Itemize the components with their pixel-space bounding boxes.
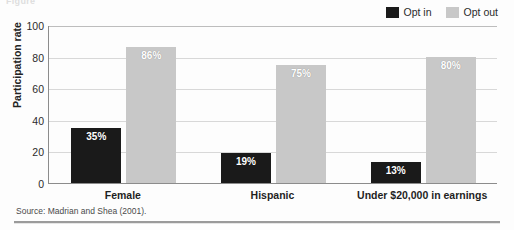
legend-label: Opt in — [404, 7, 432, 18]
bar-value-label: 75% — [276, 68, 326, 79]
source-note: Source: Madrian and Shea (2001). — [16, 206, 146, 216]
x-axis-line — [48, 183, 497, 184]
figure-container: Figure Opt in Opt out Participation rate… — [0, 0, 514, 230]
bar-group-container: 35%86%19%75%13%80% — [49, 26, 497, 183]
legend-swatch-icon — [386, 7, 399, 18]
y-axis-tick-label: 40 — [32, 115, 44, 127]
bar[interactable]: 35% — [71, 128, 121, 183]
bar-value-label: 19% — [221, 156, 271, 167]
y-axis-tick-label: 20 — [32, 146, 44, 158]
bar[interactable]: 13% — [371, 162, 421, 183]
bottom-rule — [14, 221, 500, 224]
plot-area: Participation rate 020406080100 35%86%19… — [0, 26, 514, 188]
axes: 35%86%19%75%13%80% — [48, 26, 497, 184]
figure-caption-remnant: Figure — [6, 0, 35, 6]
bar-value-label: 80% — [426, 60, 476, 71]
bar[interactable]: 19% — [221, 153, 271, 183]
bar-value-label: 13% — [371, 165, 421, 176]
legend-label: Opt out — [464, 7, 498, 18]
legend-item-opt-out[interactable]: Opt out — [446, 7, 498, 18]
y-axis-tick-label: 80 — [32, 52, 44, 64]
y-axis-tick-labels: 020406080100 — [18, 26, 44, 184]
y-axis-tick-label: 60 — [32, 83, 44, 95]
x-axis-category-labels: FemaleHispanicUnder $20,000 in earnings — [48, 189, 497, 207]
bar[interactable]: 86% — [126, 47, 176, 183]
chart-legend: Opt in Opt out — [386, 7, 498, 18]
y-axis-tick-label: 100 — [26, 20, 44, 32]
bar-value-label: 86% — [126, 50, 176, 61]
y-axis-tick-label: 0 — [38, 178, 44, 190]
legend-item-opt-in[interactable]: Opt in — [386, 7, 432, 18]
legend-swatch-icon — [446, 7, 459, 18]
bar[interactable]: 80% — [426, 57, 476, 183]
x-axis-category-label: Female — [105, 189, 141, 201]
x-axis-category-label: Under $20,000 in earnings — [357, 189, 487, 201]
bar[interactable]: 75% — [276, 65, 326, 184]
bar-value-label: 35% — [71, 131, 121, 142]
x-axis-category-label: Hispanic — [251, 189, 295, 201]
